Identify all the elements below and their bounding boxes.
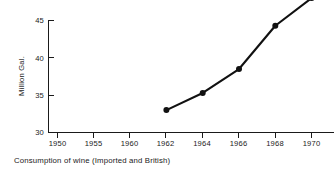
x-tick-label-1955: 1955: [85, 139, 103, 148]
y-tick-label-35: 35: [35, 91, 44, 100]
x-tick-label-1950: 1950: [49, 139, 67, 148]
data-point-1964: [200, 90, 206, 96]
line-chart: 30 35 40 45 Million Gal. 1950 1955 1960 …: [0, 0, 336, 174]
data-point-1966: [236, 66, 242, 72]
data-point-1968: [272, 23, 278, 29]
y-tick-label-45: 45: [35, 16, 44, 25]
chart-figure: 30 35 40 45 Million Gal. 1950 1955 1960 …: [0, 0, 336, 174]
x-tick-label-1964: 1964: [193, 139, 211, 148]
x-tick-label-1970: 1970: [303, 139, 321, 148]
y-tick-label-40: 40: [35, 54, 44, 63]
y-tick-label-30: 30: [35, 128, 44, 137]
y-axis-title: Million Gal.: [17, 56, 26, 96]
x-tick-label-1960: 1960: [121, 139, 139, 148]
x-tick-label-1966: 1966: [230, 139, 248, 148]
chart-caption: Consumption of wine (Imported and Britis…: [14, 156, 170, 165]
x-tick-label-1968: 1968: [266, 139, 284, 148]
x-tick-label-1962: 1962: [157, 139, 175, 148]
data-point-1962: [163, 107, 169, 113]
